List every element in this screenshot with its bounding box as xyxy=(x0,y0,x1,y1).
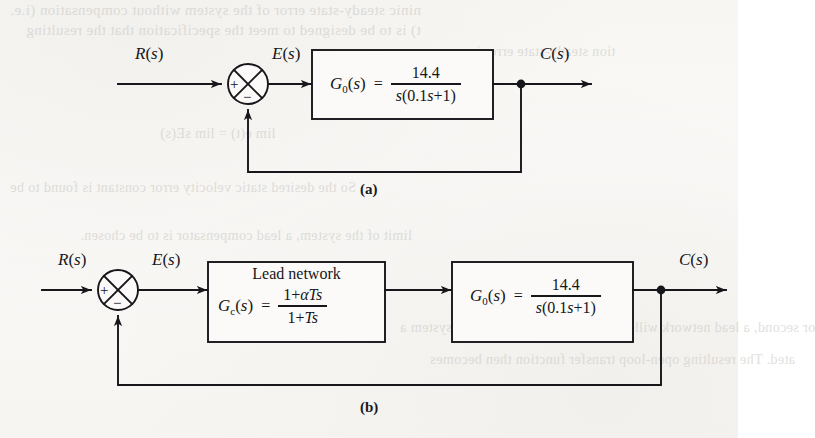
diagram-b-input-var: R xyxy=(58,250,68,269)
diagram-b-compensator-denominator: 1+Ts xyxy=(282,307,323,327)
diagram-b-minus-sign: − xyxy=(113,295,121,312)
diagram-b-compensator-fraction: 1+αTs 1+Ts xyxy=(278,286,327,326)
diagram-b-output-var: C xyxy=(679,250,690,269)
diagram-b-input-label: R(s) xyxy=(58,250,86,270)
diagram-b-compensator-numerator: 1+αTs xyxy=(278,286,327,305)
diagram-b-plant-numerator: 14.4 xyxy=(547,276,585,295)
diagram-b-error-var: E xyxy=(152,250,162,269)
diagram-a-output-var: C xyxy=(540,44,551,63)
diagram-a-plant-numerator: 14.4 xyxy=(407,64,445,83)
diagram-a-input-label: R(s) xyxy=(135,44,163,64)
diagram-a-error-arg: s xyxy=(288,44,295,63)
diagram-b-error-label: E(s) xyxy=(152,250,180,270)
diagram-b-compensator-expression: Gc(s) = 1+αTs 1+Ts xyxy=(218,286,327,326)
diagram-a-caption: (a) xyxy=(360,181,378,198)
diagram-b-compensator-function-name: Gc(s) xyxy=(218,296,253,317)
diagram-a-input-var: R xyxy=(135,44,145,63)
diagram-a-plant-fraction: 14.4 s(0.1s+1) xyxy=(391,64,461,104)
diagram-b-plant-equals: = xyxy=(513,287,524,305)
diagram-a-plus-sign: + xyxy=(230,76,238,93)
diagram-b-plant-fraction: 14.4 s(0.1s+1) xyxy=(531,276,601,316)
diagram-b-compensator-equals: = xyxy=(260,297,271,315)
diagram-a-plant-denominator: s(0.1s+1) xyxy=(391,85,461,105)
diagram-b-plant-denominator: s(0.1s+1) xyxy=(531,297,601,317)
diagram-b-plant-expression: G0(s) = 14.4 s(0.1s+1) xyxy=(470,276,601,316)
diagram-a-minus-sign: − xyxy=(243,89,251,106)
diagram-b-plus-sign: + xyxy=(100,282,108,299)
diagram-a-error-label: E(s) xyxy=(272,44,300,64)
diagram-a-output-arg: s xyxy=(557,44,564,63)
diagram-a-output-label: C(s) xyxy=(540,44,569,64)
diagram-b-compensator-title: Lead network xyxy=(229,265,364,283)
diagram-b-output-label: C(s) xyxy=(679,250,708,270)
diagram-b-plant-function-name: G0(s) xyxy=(470,286,506,307)
diagram-a-plant-equals: = xyxy=(373,75,384,93)
diagram-b-input-arg: s xyxy=(74,250,81,269)
diagram-b-error-arg: s xyxy=(168,250,175,269)
diagram-a-plant-expression: G0(s) = 14.4 s(0.1s+1) xyxy=(330,64,461,104)
diagram-a-input-arg: s xyxy=(151,44,158,63)
diagram-a-error-var: E xyxy=(272,44,282,63)
diagram-b-output-arg: s xyxy=(696,250,703,269)
diagram-a-plant-function-name: G0(s) xyxy=(330,74,366,95)
diagram-b-caption: (b) xyxy=(360,399,378,416)
